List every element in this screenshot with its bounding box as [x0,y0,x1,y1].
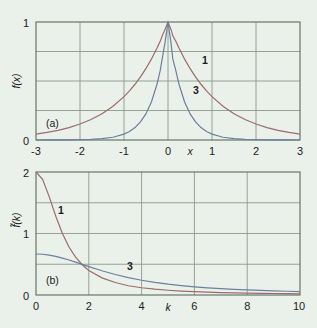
panel-a-curve-1-annotation: 1 [202,54,208,66]
figure-container: 1 0 -3 -2 -1 0 1 2 3 x f(x) (a) 1 3 [0,0,317,328]
panel-a-curve-3-annotation: 3 [193,84,199,96]
panel-a-ylabel: f(x) [10,73,22,88]
panel-a-xlabel: x [186,145,193,157]
panel-b-xtick-0: 0 [33,300,39,312]
panel-a-xtick-0: 0 [165,145,171,157]
panel-b-curve-3-annotation: 3 [127,260,133,272]
panel-b-label: (b) [46,274,59,286]
panel-b-xtick-4: 4 [139,300,145,312]
panel-b-curve-1-annotation: 1 [58,204,64,216]
panel-b-background [0,160,317,328]
panel-b-ylabel: f̃(k) [10,212,22,228]
panel-b-xlabel: k [165,301,171,313]
panel-a-xtick-2: 2 [253,145,259,157]
plot-b-svg: 2 1 0 0 2 4 6 8 10 k f̃(k) (b) 1 3 [0,160,317,328]
plot-panel-a: 1 0 -3 -2 -1 0 1 2 3 x f(x) (a) 1 3 [0,0,317,160]
panel-a-ytick-0: 0 [23,135,29,147]
panel-b-xtick-10: 10 [293,300,305,312]
panel-b-xtick-8: 8 [244,300,250,312]
panel-a-xtick-neg1: -1 [119,145,129,157]
panel-b-xtick-2: 2 [86,300,92,312]
panel-b-ytick-2: 2 [23,167,29,179]
panel-a-label: (a) [46,117,59,129]
panel-a-xtick-neg2: -2 [75,145,85,157]
panel-a-xtick-neg3: -3 [31,145,41,157]
plot-panel-b: 2 1 0 0 2 4 6 8 10 k f̃(k) (b) 1 3 [0,160,317,328]
plot-a-svg: 1 0 -3 -2 -1 0 1 2 3 x f(x) (a) 1 3 [0,0,317,160]
panel-a-ytick-1: 1 [23,17,29,29]
panel-a-xtick-1: 1 [209,145,215,157]
panel-b-ytick-1: 1 [23,228,29,240]
panel-b-ytick-0: 0 [23,290,29,302]
panel-b-xtick-6: 6 [191,300,197,312]
panel-a-xtick-3: 3 [297,145,303,157]
